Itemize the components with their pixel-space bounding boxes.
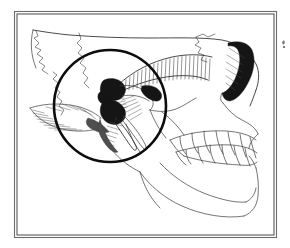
illustration-figure: Lateral skull illustration with temporom… <box>0 0 290 248</box>
canvas-background <box>0 0 290 248</box>
skull-illustration-svg: Lateral skull illustration with temporom… <box>0 0 290 248</box>
